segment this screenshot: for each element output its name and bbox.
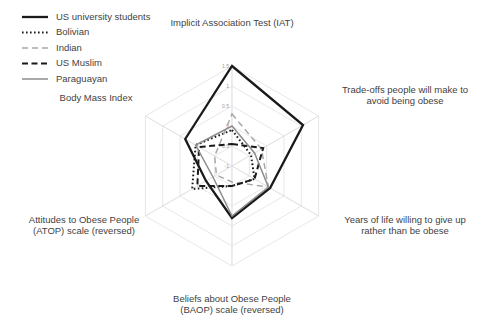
axis-label-line: Body Mass Index <box>60 92 133 103</box>
legend-item-us-university-students[interactable]: US university students <box>22 11 151 22</box>
axis-label-1: Trade-offs people will make toavoid bein… <box>342 84 468 106</box>
axis-label-line: avoid being obese <box>366 95 443 106</box>
grid-layer <box>145 66 318 266</box>
legend-label: US Muslim <box>56 57 102 68</box>
legend-label: Bolivian <box>56 26 89 37</box>
r-tick-label--0.5: -0.5 <box>220 143 229 149</box>
axis-label-4: Attitudes to Obese People(ATOP) scale (r… <box>29 214 139 236</box>
legend-item-indian[interactable]: Indian <box>22 42 82 53</box>
grid-connector <box>215 156 232 166</box>
grid-connector <box>145 116 162 126</box>
grid-connector <box>232 166 249 176</box>
legend-item-bolivian[interactable]: Bolivian <box>22 26 89 37</box>
legend[interactable]: US university studentsBolivianIndianUS M… <box>22 11 151 84</box>
grid-connector <box>232 156 249 166</box>
series-polygon-bolivian <box>192 130 254 189</box>
grid-connector <box>284 196 301 206</box>
legend-item-us-muslim[interactable]: US Muslim <box>22 57 102 68</box>
axis-label-line: Attitudes to Obese People <box>29 214 139 225</box>
radar-chart: -1-0.500.511.5 Implicit Association Test… <box>0 0 481 333</box>
axis-label-line: (ATOP) scale (reversed) <box>33 225 135 236</box>
legend-label: Paraguayan <box>56 73 107 84</box>
axis-label-line: Implicit Association Test (IAT) <box>170 17 293 28</box>
legend-item-paraguayan[interactable]: Paraguayan <box>22 73 107 84</box>
axis-label-3: Beliefs about Obese People(BAOP) scale (… <box>173 293 291 315</box>
grid-connector <box>145 206 162 216</box>
axis-label-0: Implicit Association Test (IAT) <box>170 17 293 28</box>
axis-label-2: Years of life willing to give uprather t… <box>344 214 466 236</box>
series-polygon-indian <box>215 114 269 187</box>
legend-label: Indian <box>56 42 82 53</box>
grid-connector <box>163 196 180 206</box>
axis-label-line: Beliefs about Obese People <box>173 293 291 304</box>
grid-connector <box>180 186 197 196</box>
axis-label-line: Years of life willing to give up <box>344 214 466 225</box>
grid-connector <box>301 206 318 216</box>
axis-label-line: (BAOP) scale (reversed) <box>180 304 283 315</box>
r-tick-label-0.5: 0.5 <box>222 103 229 109</box>
r-tick-label-1.5: 1.5 <box>222 63 229 69</box>
radar-chart-canvas: -1-0.500.511.5 Implicit Association Test… <box>0 0 481 333</box>
axis-label-5: Body Mass Index <box>60 92 133 103</box>
r-tick-label-1: 1 <box>226 83 229 89</box>
legend-label: US university students <box>56 11 151 22</box>
axis-label-line: rather than be obese <box>361 225 449 236</box>
axis-label-line: Trade-offs people will make to <box>342 84 468 95</box>
grid-connector <box>163 126 180 136</box>
series-layer <box>185 66 303 218</box>
r-tick-label--1: -1 <box>225 163 230 169</box>
grid-connector <box>215 166 232 176</box>
grid-connector <box>267 136 284 146</box>
